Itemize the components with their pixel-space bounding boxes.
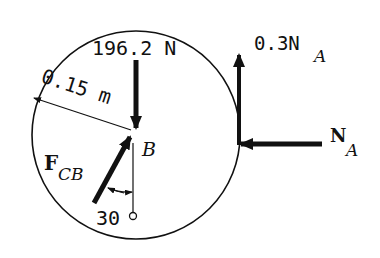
- angle-label: 30: [96, 206, 137, 230]
- friction-label: 0.3N A: [254, 32, 326, 66]
- point-b-label: B: [141, 138, 156, 160]
- svg-text:A: A: [312, 46, 326, 66]
- weight-label: 196.2 N: [92, 36, 176, 60]
- svg-text:N: N: [330, 125, 346, 146]
- force-cb-label: F CB: [44, 151, 84, 184]
- force-cb-arrow: [94, 137, 130, 203]
- svg-text:CB: CB: [58, 164, 84, 184]
- svg-text:30: 30: [96, 206, 120, 230]
- svg-text:0.3N: 0.3N: [254, 32, 300, 54]
- degree-symbol: [130, 213, 137, 220]
- free-body-diagram: 196.2 N 0.15 m B F CB 30 0.3N A N A: [0, 0, 380, 258]
- svg-text:A: A: [344, 140, 358, 160]
- normal-label: N A: [330, 125, 358, 160]
- svg-text:F: F: [44, 151, 58, 175]
- radius-label: 0.15 m: [38, 64, 114, 109]
- radius-dimension-line: [34, 98, 131, 130]
